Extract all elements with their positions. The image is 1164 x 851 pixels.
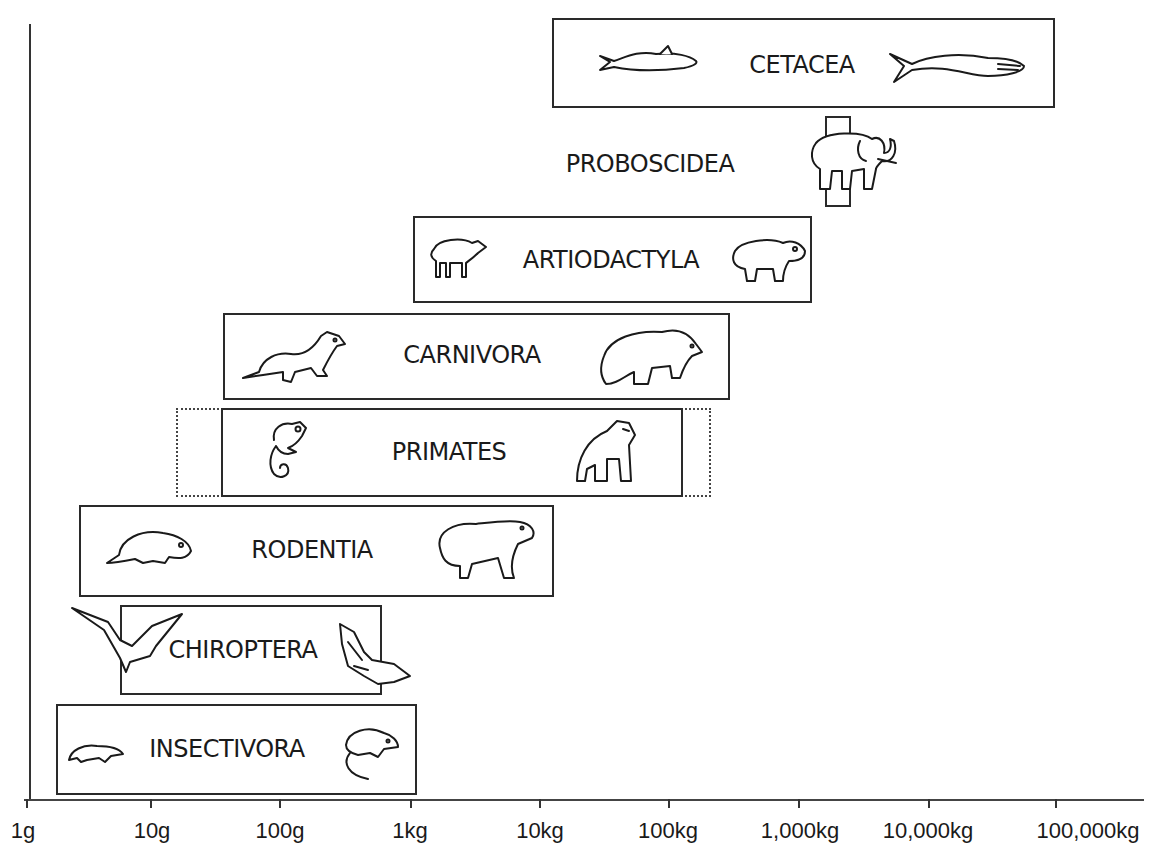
x-tick: [410, 799, 412, 808]
capybara-icon: [432, 516, 538, 582]
hedgehog-tenrec-icon: [340, 723, 402, 781]
small-bat-icon: [68, 606, 188, 676]
group-label-carnivora: CARNIVORA: [403, 341, 540, 369]
x-tick-label: 10kg: [516, 818, 564, 844]
mammal-body-mass-chart: 1g 10g 100g 1kg 10kg 100kg 1,000kg 10,00…: [0, 0, 1164, 851]
x-tick-label: 1,000kg: [761, 818, 839, 844]
hippopotamus-icon: [729, 237, 807, 283]
mouse-icon: [105, 525, 195, 567]
y-axis-line: [29, 24, 31, 801]
x-tick: [798, 799, 800, 808]
fruit-bat-icon: [338, 622, 414, 686]
group-label-artiodactyla: ARTIODACTYLA: [523, 246, 699, 274]
x-tick-label: 10,000kg: [883, 818, 974, 844]
x-tick: [1055, 799, 1057, 808]
bushbaby-icon: [260, 420, 310, 482]
x-tick-label: 1kg: [392, 818, 427, 844]
blue-whale-icon: [888, 50, 1028, 84]
x-tick-label: 10g: [134, 818, 171, 844]
x-tick: [279, 799, 281, 808]
dolphin-icon: [598, 48, 698, 78]
x-tick: [668, 799, 670, 808]
x-axis-line: [24, 799, 1144, 801]
x-tick-label: 100g: [256, 818, 305, 844]
mouse-deer-icon: [428, 235, 488, 279]
group-label-rodentia: RODENTIA: [251, 536, 372, 564]
group-label-chiroptera: CHIROPTERA: [169, 636, 318, 664]
elephant-icon: [806, 129, 898, 191]
x-tick-label: 100kg: [638, 818, 698, 844]
group-label-insectivora: INSECTIVORA: [149, 735, 304, 763]
group-label-cetacea: CETACEA: [749, 51, 855, 79]
weasel-icon: [241, 328, 351, 384]
gorilla-icon: [573, 419, 639, 485]
x-tick: [26, 799, 28, 808]
group-label-primates: PRIMATES: [392, 438, 507, 466]
x-tick: [539, 799, 541, 808]
shrew-icon: [67, 740, 125, 764]
bear-icon: [596, 326, 704, 388]
x-tick: [150, 799, 152, 808]
x-tick-label: 1g: [11, 818, 35, 844]
group-label-proboscidea: PROBOSCIDEA: [566, 150, 735, 178]
x-tick: [928, 799, 930, 808]
x-tick-label: 100,000kg: [1037, 818, 1140, 844]
